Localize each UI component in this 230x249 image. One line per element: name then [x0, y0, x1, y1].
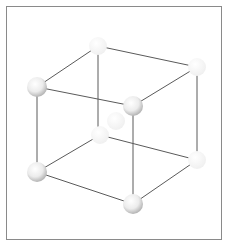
- atom-center-faint: [107, 112, 125, 130]
- atom-back-top-right: [188, 58, 206, 76]
- cubic-lattice-diagram: [0, 0, 230, 249]
- atom-front-bottom-right: [123, 194, 143, 214]
- atom-back-bottom-right: [188, 151, 206, 169]
- edge: [37, 172, 133, 204]
- edge: [100, 135, 197, 160]
- edge: [98, 46, 197, 67]
- front-atoms: [27, 77, 143, 214]
- edge: [133, 160, 197, 204]
- edge: [37, 46, 98, 87]
- atom-back-bottom-left: [91, 126, 109, 144]
- atom-front-bottom-left: [27, 162, 47, 182]
- edge: [37, 135, 100, 172]
- atom-back-top-left: [89, 37, 107, 55]
- edge: [133, 67, 197, 106]
- atom-front-top-left: [27, 77, 47, 97]
- atom-front-top-right: [123, 96, 143, 116]
- edge: [37, 87, 133, 106]
